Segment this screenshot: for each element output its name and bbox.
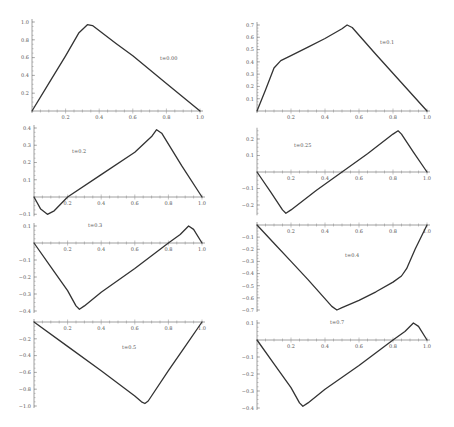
x-tick-label: 0.6 [131,325,139,331]
x-tick-label: 1.0 [423,343,431,349]
y-tick-label: −0.8 [19,386,31,392]
x-tick-label: 0.2 [62,114,70,120]
x-tick-label: 0.4 [321,114,329,120]
data-curve [257,25,427,111]
x-tick-label: 0.2 [64,200,72,206]
x-tick-label: 0.8 [389,175,397,181]
x-tick-label: 0.8 [164,325,172,331]
y-tick-label: −0.3 [19,291,31,297]
x-tick-label: 0.6 [131,246,139,252]
y-tick-label: 0.1 [246,96,254,102]
y-tick-label: 0.1 [23,177,31,183]
data-curve [32,25,200,111]
x-tick-label: 0.6 [129,114,137,120]
time-label: t=0.5 [122,344,136,350]
y-tick-label: 1.0 [21,19,29,25]
plot-panel-7: 0.20.40.60.81.0−0.2−0.4−0.6−0.8−1.0t=0.5 [19,319,206,409]
time-label: t=0.25 [294,142,311,148]
x-tick-label: 0.6 [355,228,363,234]
y-tick-label: 0.8 [21,37,29,43]
y-tick-label: −1.0 [19,403,31,409]
x-tick-label: 0.6 [131,200,139,206]
y-tick-label: −0.1 [242,354,254,360]
y-tick-label: 0.2 [23,159,31,165]
y-tick-label: 0.1 [246,152,254,158]
time-label: t=0.1 [380,39,394,45]
x-tick-label: 1.0 [198,246,206,252]
x-tick-label: 0.8 [389,343,397,349]
y-tick-label: 0.3 [23,142,31,148]
y-tick-label: −0.2 [242,202,254,208]
x-tick-label: 0.4 [321,175,329,181]
plot-panel-8: 0.20.40.60.81.0−0.4−0.3−0.2−0.10.1t=0.7 [242,319,431,411]
x-tick-label: 0.2 [64,246,72,252]
time-label: t=0.2 [72,148,86,154]
plot-panel-2: 0.20.40.60.81.00.10.20.30.40.50.60.7t=0.… [246,22,431,120]
x-tick-label: 0.6 [355,114,363,120]
y-tick-label: 0.4 [23,125,31,131]
x-tick-label: 0.2 [287,343,295,349]
x-tick-label: 0.8 [164,200,172,206]
y-tick-label: −0.2 [242,246,254,252]
y-tick-label: −0.2 [242,371,254,377]
plot-panel-6: 0.20.40.60.81.0−0.1−0.2−0.3−0.4−0.5−0.6−… [242,222,431,313]
y-tick-label: −0.1 [242,234,254,240]
x-tick-label: 0.2 [64,325,72,331]
x-tick-label: 0.6 [355,343,363,349]
x-tick-label: 0.4 [95,114,103,120]
x-tick-label: 0.2 [287,114,295,120]
y-tick-label: 0.3 [246,71,254,77]
y-tick-label: −0.4 [19,352,31,358]
x-tick-label: 0.4 [321,343,329,349]
x-tick-label: 0.4 [321,228,329,234]
y-tick-label: 0.2 [246,83,254,89]
x-tick-label: 1.0 [196,114,204,120]
y-tick-label: 0.4 [21,72,29,78]
y-tick-label: 0.2 [246,136,254,142]
y-tick-label: −0.4 [19,308,31,314]
time-label: t=0.3 [88,222,102,228]
y-tick-label: −0.4 [242,270,254,276]
plots-canvas: 0.20.40.60.81.00.20.40.60.81.0t=0.000.20… [0,0,454,427]
x-tick-label: 0.8 [389,114,397,120]
y-tick-label: −0.1 [242,185,254,191]
data-curve [34,322,202,404]
time-label: t=0.00 [160,55,177,61]
x-tick-label: 0.8 [389,228,397,234]
x-tick-label: 0.4 [97,246,105,252]
data-curve [257,225,427,310]
y-tick-label: 0.4 [246,59,254,65]
x-tick-label: 0.6 [355,175,363,181]
y-tick-label: 0.7 [246,22,254,28]
y-tick-label: −0.6 [19,369,31,375]
data-curve [257,323,427,406]
y-tick-label: −0.1 [19,257,31,263]
x-tick-label: 0.8 [162,114,170,120]
y-tick-label: −0.5 [242,283,254,289]
time-label: t=0.7 [330,319,344,325]
y-tick-label: −0.3 [242,388,254,394]
x-tick-label: 0.2 [287,228,295,234]
plot-panel-3: 0.20.40.60.81.0−0.10.10.20.30.4t=0.2 [19,125,206,217]
y-tick-label: −0.3 [242,258,254,264]
x-tick-label: 0.4 [97,200,105,206]
x-tick-label: 0.4 [97,325,105,331]
y-tick-label: −0.1 [19,211,31,217]
y-tick-label: 0.1 [246,320,254,326]
plot-grid: 0.20.40.60.81.00.20.40.60.81.0t=0.000.20… [0,0,454,427]
y-tick-label: −0.7 [242,307,254,313]
y-tick-label: 0.6 [21,54,29,60]
x-tick-label: 0.2 [287,175,295,181]
x-tick-label: 1.0 [423,114,431,120]
x-tick-label: 0.8 [164,246,172,252]
time-label: t=0.4 [345,252,359,258]
y-tick-label: 0.5 [246,46,254,52]
data-curve [34,226,202,309]
y-tick-label: 0.1 [23,223,31,229]
y-tick-label: −0.4 [242,405,254,411]
plot-panel-5: 0.20.40.60.81.0−0.4−0.3−0.2−0.10.1t=0.3 [19,222,206,314]
data-curve [34,130,202,215]
y-tick-label: −0.2 [19,336,31,342]
x-tick-label: 1.0 [423,175,431,181]
y-tick-label: 0.6 [246,34,254,40]
